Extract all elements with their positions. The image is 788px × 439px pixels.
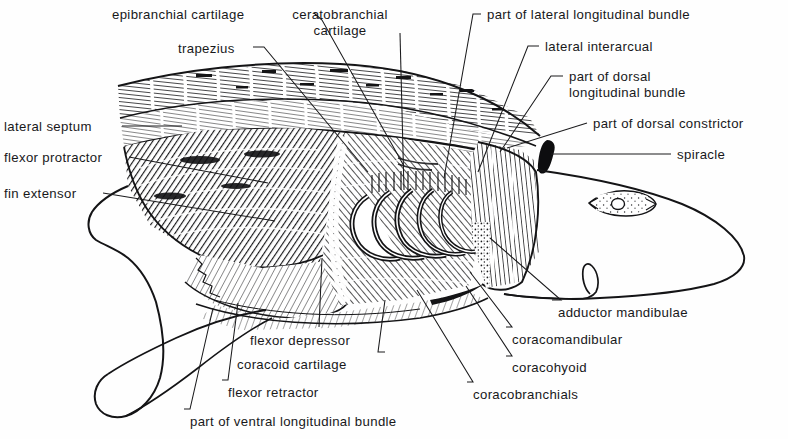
label-fin-extensor: fin extensor <box>4 186 76 202</box>
label-lateral-septum: lateral septum <box>4 119 92 135</box>
label-flexor-protractor: flexor protractor <box>4 150 102 166</box>
label-spiracle: spiracle <box>677 147 725 163</box>
label-part-of-lateral-longitudinal-bundle: part of lateral longitudinal bundle <box>487 7 690 23</box>
shark-dissection-illustration <box>0 0 788 439</box>
label-coracohyoid: coracohyoid <box>512 360 587 376</box>
label-part-of-dorsal-constrictor: part of dorsal constrictor <box>593 116 744 132</box>
label-coracobranchials: coracobranchials <box>473 387 578 403</box>
eye <box>589 191 656 216</box>
label-trapezius: trapezius <box>178 41 235 57</box>
head-outline <box>504 170 744 299</box>
label-coracoid-cartilage: coracoid cartilage <box>237 357 347 373</box>
label-flexor-retractor: flexor retractor <box>228 385 319 401</box>
label-lateral-interarcual: lateral interarcual <box>545 39 653 55</box>
label-ceratobranchial-cartilage: ceratobranchial cartilage <box>250 7 430 38</box>
label-epibranchial-cartilage: epibranchial cartilage <box>112 7 244 23</box>
label-part-of-ventral-longitudinal-bundle: part of ventral longitudinal bundle <box>190 414 397 430</box>
label-part-of-dorsal-longitudinal-bundle: part of dorsal longitudinal bundle <box>569 69 686 100</box>
label-flexor-depressor: flexor depressor <box>250 333 350 349</box>
label-coracomandibular: coracomandibular <box>512 332 622 348</box>
dorsal-constrictor <box>460 135 550 300</box>
label-adductor-mandibulae: adductor mandibulae <box>558 305 688 321</box>
figure-canvas: epibranchial cartilageceratobranchial ca… <box>0 0 788 439</box>
spiracle-opening <box>538 140 555 174</box>
leader-part-of-ventral-longitudinal-bundle <box>184 308 213 409</box>
